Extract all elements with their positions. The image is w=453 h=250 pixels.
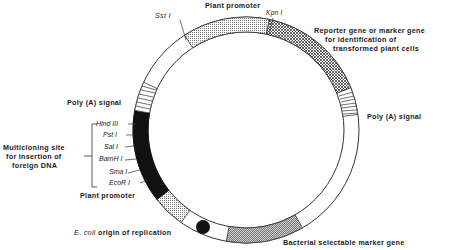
- sst-site-label: Sst I: [155, 11, 171, 20]
- bottom-plant-promoter-label: Plant promoter: [80, 191, 135, 200]
- right-polya-label: Poly (A) signal: [367, 112, 421, 121]
- kpn-site-label: Kpn I: [266, 8, 283, 17]
- reporter-label-3: transformed plant cells: [333, 44, 419, 53]
- right-polya-segment: [337, 88, 358, 117]
- pst-i-site: Pst I: [103, 131, 117, 138]
- mcs-label-2: for insertion of: [6, 152, 62, 161]
- sal-i-site: Sal I: [104, 143, 118, 150]
- top-plant-promoter-segment: [185, 17, 270, 48]
- sma-i-site: Sma I: [109, 168, 127, 175]
- bacterial-marker-label: Bacterial selectable marker gene: [283, 238, 404, 247]
- mcs-bracket: [84, 124, 97, 187]
- multicloning-site-segment: [133, 110, 169, 199]
- ecor-i-site: EcoR I: [109, 179, 130, 186]
- bamh-i-site: BamH I: [99, 155, 122, 162]
- ecoli-origin-dot: [196, 220, 210, 234]
- ecoli-origin-label: E. coli origin of replication: [74, 228, 171, 237]
- left-polya-segment: [135, 82, 158, 113]
- mcs-label-3: foreign DNA: [12, 161, 57, 170]
- mcs-label-1: Multicloning site: [3, 143, 65, 152]
- ori-text: origin of replication: [96, 228, 172, 237]
- ecoli-italic: E. coli: [74, 228, 96, 237]
- top-plant-promoter-label: Plant promoter: [205, 1, 260, 10]
- reporter-label-1: Reporter gene or marker gene: [314, 26, 425, 35]
- reporter-label-2: for identification of: [325, 35, 396, 44]
- hind-iii-site: Hind III: [96, 120, 118, 127]
- left-polya-label: Poly (A) signal: [67, 98, 121, 107]
